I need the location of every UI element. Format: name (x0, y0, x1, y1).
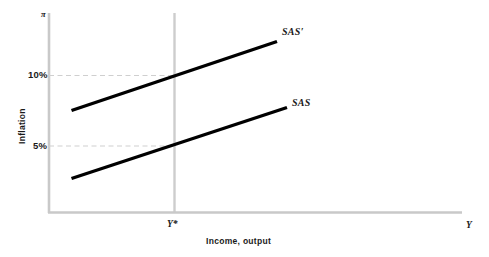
curve-label-sas-prime: SAS′ (282, 27, 304, 37)
curve-sas (72, 108, 288, 179)
y-tick-label-5-percent: 5% (33, 141, 47, 151)
chart-figure: π 10% 5% Inflation SAS′ SAS Y* Y Income,… (0, 0, 489, 257)
y-axis-title: Inflation (18, 108, 27, 144)
chart-plot-area (0, 0, 489, 257)
x-axis-title: Income, output (206, 237, 271, 246)
y-axis-symbol: π (41, 10, 46, 19)
x-tick-label-y-star: Y* (167, 220, 178, 230)
x-axis-symbol: Y (466, 221, 472, 231)
curve-label-sas: SAS (292, 98, 311, 108)
y-tick-label-10-percent: 10% (28, 70, 48, 80)
